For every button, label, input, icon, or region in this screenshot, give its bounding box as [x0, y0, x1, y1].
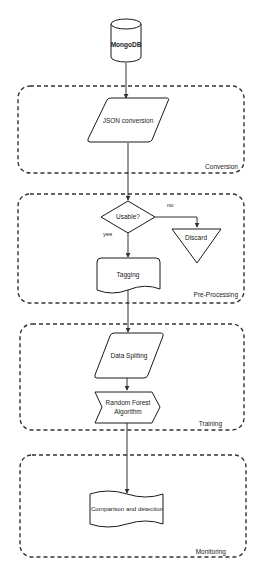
node-label-json-conversion: JSON conversion — [103, 117, 154, 124]
node-label-usable: Usable? — [116, 213, 140, 220]
edge-label-yes: yes — [103, 231, 112, 237]
edge-usable-discard — [155, 217, 197, 227]
node-mongodb: MongoDB — [111, 19, 142, 62]
group-label-monitoring: Monitoring — [196, 548, 227, 556]
group-label-preprocessing: Pre-Processing — [194, 291, 239, 299]
node-label-comparison: Comparison and detection — [91, 505, 164, 512]
group-label-training: Training — [199, 420, 223, 428]
node-json-conversion: JSON conversion — [88, 98, 169, 142]
node-label-data-spliting: Data Spliting — [111, 352, 148, 360]
node-data-spliting: Data Spliting — [95, 333, 163, 378]
node-label-tagging: Tagging — [117, 271, 140, 279]
node-usable: Usable? — [101, 201, 155, 233]
flowchart-canvas: Conversion Pre-Processing Training Monit… — [0, 0, 259, 578]
node-label-discard: Discard — [185, 234, 207, 241]
edge-label-no: no — [167, 202, 174, 208]
node-label-random-forest-1: Random Forest — [106, 399, 151, 406]
node-label-mongodb: MongoDB — [111, 41, 142, 49]
node-comparison: Comparison and detection — [90, 491, 164, 527]
node-tagging: Tagging — [97, 258, 160, 293]
node-discard: Discard — [172, 229, 221, 263]
group-label-conversion: Conversion — [205, 163, 238, 170]
node-label-random-forest-2: Algorithm — [114, 408, 141, 416]
node-random-forest: Random Forest Algorithm — [95, 392, 160, 423]
